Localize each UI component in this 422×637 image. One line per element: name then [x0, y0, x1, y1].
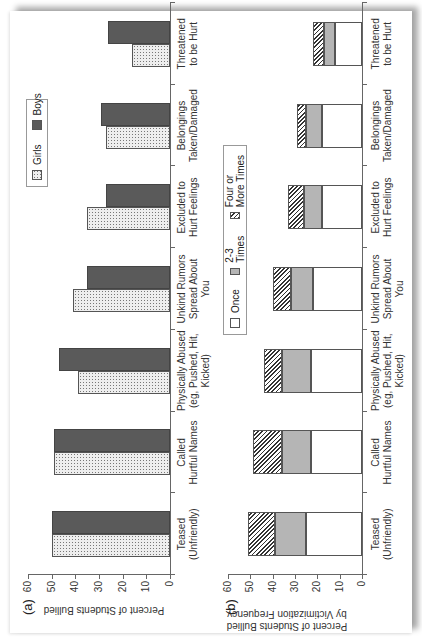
category-label-a: BelongingsTaken/Damaged: [176, 81, 200, 171]
boys-swatch-icon: [32, 120, 42, 130]
bar-boys: [108, 21, 170, 44]
y-tick-label-b: 40: [267, 581, 278, 599]
y-axis-title-b: Percent of Students Bullied by Victimiza…: [212, 608, 362, 632]
x-tick-a: [170, 329, 175, 330]
y-tick-label-b: 60: [222, 581, 233, 599]
bar-girls: [106, 126, 170, 149]
x-tick-a: [170, 574, 175, 575]
y-tick-label-b: 20: [311, 581, 322, 599]
category-label-b: Physically Abused(eg, Pushed, Hit,Kicked…: [370, 326, 406, 416]
segment-once: [335, 22, 362, 66]
girls-swatch-icon: [32, 170, 42, 180]
category-label-line: Teased: [370, 489, 382, 579]
y-tick-label-b: 30: [289, 581, 300, 599]
segment-four-or-more: [253, 430, 282, 474]
x-tick-a: [170, 84, 175, 85]
x-tick-b: [362, 411, 367, 412]
category-label-line: Hurt Feelings: [382, 162, 394, 252]
category-label-line: Physically Abused: [176, 326, 188, 416]
segment-four-or-more: [273, 267, 291, 311]
category-label-line: (Unfriendly): [188, 489, 200, 579]
x-tick-a: [170, 247, 175, 248]
category-label-line: Hurtful Names: [382, 407, 394, 497]
segment-four-or-more: [288, 185, 304, 229]
y-tick-a: [28, 574, 29, 579]
legend-label: Girls: [32, 144, 43, 165]
y-tick-a: [146, 574, 147, 579]
category-label-line: Threatened: [176, 0, 188, 89]
bar-girls: [54, 452, 170, 475]
category-label-line: Hurt Feelings: [188, 162, 200, 252]
y-tick-label-b: 50: [244, 581, 255, 599]
segment-2-3-times: [306, 104, 322, 148]
bar-girls: [73, 289, 170, 312]
chart-panel-a: (a) Percent of Students Bullied GirlsBoy…: [0, 0, 205, 637]
x-tick-b: [362, 84, 367, 85]
bar-boys: [54, 429, 170, 452]
segment-once: [306, 512, 362, 556]
category-label-a: Threatenedto be Hurt: [176, 0, 200, 89]
y-axis-title-b-line1: Percent of Students Bullied: [212, 620, 362, 632]
y-tick-a: [99, 574, 100, 579]
category-label-b: Unkind RumorsSpread AboutYou: [370, 244, 406, 334]
x-tick-b: [362, 329, 367, 330]
segment-once: [311, 430, 362, 474]
x-tick-b: [362, 247, 367, 248]
y-tick-a: [123, 574, 124, 579]
chart-panel-b: (b) Percent of Students Bullied by Victi…: [205, 0, 422, 637]
legend-item-once: Once: [230, 289, 241, 328]
y-tick-label-a: 0: [164, 581, 175, 599]
x-tick-a: [170, 411, 175, 412]
category-label-line: Spread About: [188, 244, 200, 334]
y-tick-label-b: 10: [334, 581, 345, 599]
four-swatch-icon: [230, 212, 240, 219]
category-label-line: Physically Abused: [370, 326, 382, 416]
segment-2-3-times: [282, 430, 311, 474]
category-label-b: BelongingsTaken/Damaged: [370, 81, 394, 171]
segment-2-3-times: [282, 349, 311, 393]
y-tick-a: [75, 574, 76, 579]
category-label-line: to be Hurt: [382, 0, 394, 89]
category-label-line: (eg, Pushed, Hit,: [188, 326, 200, 416]
legend-label: Four or More Times: [224, 152, 246, 207]
category-label-line: Taken/Damaged: [382, 81, 394, 171]
y-tick-b: [317, 574, 318, 579]
category-label-line: Called: [176, 407, 188, 497]
category-label-line: (eg, Pushed, Hit,: [382, 326, 394, 416]
y-tick-label-a: 60: [22, 581, 33, 599]
legend-label: Once: [230, 289, 241, 313]
category-label-b: CalledHurtful Names: [370, 407, 394, 497]
y-tick-b: [250, 574, 251, 579]
legend-a: GirlsBoys: [26, 99, 48, 187]
segment-2-3-times: [304, 185, 322, 229]
legend-b: Once2-3 TimesFour or More Times: [223, 145, 247, 335]
rotated-page: (a) Percent of Students Bullied GirlsBoy…: [0, 0, 422, 637]
category-label-line: Unkind Rumors: [176, 244, 188, 334]
category-label-a: Excluded toHurt Feelings: [176, 162, 200, 252]
category-label-line: Called: [370, 407, 382, 497]
category-label-line: Unkind Rumors: [370, 244, 382, 334]
segment-once: [322, 185, 362, 229]
category-label-line: Threatened: [370, 0, 382, 89]
category-label-line: Spread About: [382, 244, 394, 334]
twothree-swatch-icon: [230, 268, 240, 275]
legend-label: Boys: [32, 93, 43, 115]
bar-girls: [87, 207, 170, 230]
x-tick-b: [362, 492, 367, 493]
segment-2-3-times: [275, 512, 306, 556]
segment-once: [322, 104, 362, 148]
bar-boys: [59, 348, 170, 371]
segment-2-3-times: [324, 22, 335, 66]
legend-item-four: Four or More Times: [224, 152, 246, 219]
segment-four-or-more: [248, 512, 275, 556]
x-tick-b: [362, 165, 367, 166]
x-tick-a: [170, 165, 175, 166]
segment-four-or-more: [313, 22, 324, 66]
bar-boys: [101, 103, 170, 126]
legend-item-twothree: 2-3 Times: [224, 233, 246, 275]
legend-item-girls: Girls: [32, 144, 43, 180]
category-label-line: Taken/Damaged: [188, 81, 200, 171]
y-tick-label-a: 10: [140, 581, 151, 599]
bar-boys: [52, 511, 170, 534]
category-label-b: Excluded toHurt Feelings: [370, 162, 394, 252]
